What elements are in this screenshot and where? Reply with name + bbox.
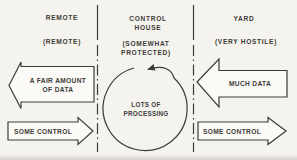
zone-title-control-house-line1: CONTROL — [129, 15, 167, 22]
diagram-canvas: REMOTE (REMOTE) CONTROL HOUSE (SOMEWHAT … — [0, 0, 297, 160]
flow-label-some-control-remote: SOME CONTROL — [14, 128, 72, 135]
zone-condition-control-house-line2: PROTECTED) — [121, 49, 171, 57]
control-house-flow-diagram: REMOTE (REMOTE) CONTROL HOUSE (SOMEWHAT … — [0, 0, 297, 160]
flow-label-much-data: MUCH DATA — [229, 80, 271, 87]
flow-label-fair-amount-line2: OF DATA — [43, 86, 74, 93]
zone-title-yard: YARD — [234, 15, 255, 22]
process-label-line2: PROCESSING — [124, 110, 169, 117]
zone-condition-yard: (VERY HOSTILE) — [215, 38, 277, 46]
zone-title-control-house-line2: HOUSE — [135, 24, 162, 31]
zone-condition-control-house-line1: (SOMEWHAT — [122, 40, 169, 48]
process-label-line1: LOTS OF — [131, 101, 160, 108]
flow-label-some-control-yard: SOME CONTROL — [203, 128, 261, 135]
zone-title-remote: REMOTE — [46, 14, 78, 21]
flow-label-fair-amount-line1: A FAIR AMOUNT — [30, 77, 86, 84]
zone-condition-remote: (REMOTE) — [43, 38, 81, 46]
